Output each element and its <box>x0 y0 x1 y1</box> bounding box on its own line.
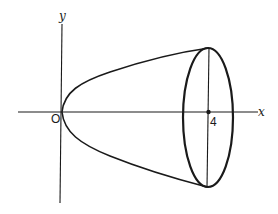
diagram-canvas <box>0 0 278 214</box>
x-axis-label: x <box>258 106 265 118</box>
x-tick-label-4: 4 <box>210 116 217 128</box>
diagram-figure: y x O 4 <box>0 0 278 214</box>
point-x4 <box>206 110 210 114</box>
ellipse-diameter <box>207 48 209 187</box>
origin-label: O <box>51 113 60 125</box>
y-axis-label: y <box>59 10 66 22</box>
